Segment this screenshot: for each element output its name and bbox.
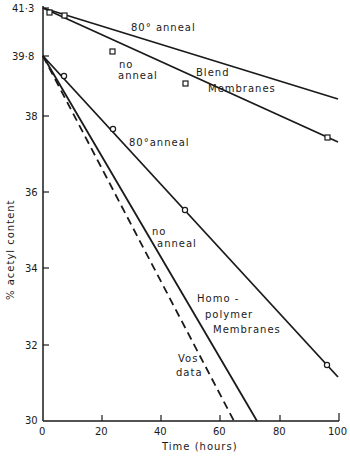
annot-blend-1: Blend — [196, 67, 229, 78]
y-axis-label: % acetyl content — [5, 199, 16, 300]
line-vos-data — [43, 56, 234, 421]
annot-homo-1: Homo - — [197, 293, 239, 304]
annot-homo-no-2: anneal — [157, 238, 197, 249]
line-homo-80-anneal — [43, 56, 338, 377]
y-tick-34: 34 — [25, 263, 38, 274]
x-tick-0: 0 — [39, 426, 45, 437]
x-ticks — [102, 413, 339, 421]
annot-homo-3: Membranes — [213, 324, 281, 335]
x-axis-label: Time (hours) — [161, 441, 238, 452]
annot-blend-80: 80° anneal — [131, 22, 196, 33]
x-tick-20: 20 — [95, 426, 108, 437]
y-tick-38: 38 — [25, 111, 38, 122]
y-tick-32: 32 — [25, 340, 38, 351]
annot-blend-no-2: anneal — [118, 70, 158, 81]
annot-homo-80: 80°anneal — [129, 137, 190, 148]
annot-homo-2: polymer — [205, 309, 253, 320]
y-tick-36: 36 — [25, 187, 38, 198]
annot-vos-2: data — [176, 367, 203, 378]
annot-blend-no-1: no — [119, 59, 133, 70]
x-tick-100: 100 — [328, 426, 347, 437]
annot-vos-1: Vos — [178, 353, 198, 364]
y-tick-30: 30 — [25, 415, 38, 426]
x-tick-40: 40 — [154, 426, 167, 437]
y-tick-41-3: 41·3 — [12, 3, 34, 14]
x-tick-80: 80 — [273, 426, 286, 437]
line-homo-no-anneal — [43, 56, 257, 421]
x-tick-60: 60 — [213, 426, 226, 437]
y-tick-39-8: 39·8 — [12, 51, 34, 62]
annot-blend-2: Membranes — [208, 83, 276, 94]
chart: 30 32 34 36 38 39·8 41·3 0 20 40 60 80 1… — [0, 0, 350, 457]
annot-homo-no-1: no — [152, 226, 166, 237]
